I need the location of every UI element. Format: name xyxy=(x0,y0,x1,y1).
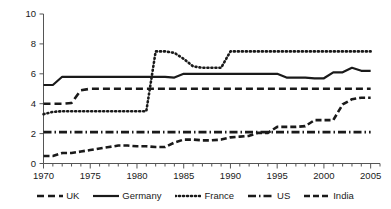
y-axis-tick-label: 0 xyxy=(20,159,36,169)
x-axis-tick-label: 1970 xyxy=(28,171,60,181)
legend-item-france[interactable]: France xyxy=(175,191,234,201)
y-axis-tick-label: 10 xyxy=(20,9,36,19)
x-axis-tick-label: 1990 xyxy=(214,171,246,181)
dotted-line-swatch xyxy=(175,191,201,201)
legend-item-germany[interactable]: Germany xyxy=(93,191,161,201)
legend-label: US xyxy=(277,191,290,201)
x-axis-tick-label: 1995 xyxy=(261,171,293,181)
legend-label: UK xyxy=(66,191,79,201)
dash-dot-line-swatch xyxy=(248,191,274,201)
x-axis-tick-label: 2005 xyxy=(355,171,387,181)
y-axis-tick-label: 2 xyxy=(20,129,36,139)
dashed-line-swatch xyxy=(37,191,63,201)
legend-label: Germany xyxy=(122,191,161,201)
solid-line-swatch xyxy=(93,191,119,201)
y-axis-tick-label: 8 xyxy=(20,39,36,49)
y-axis-tick-label: 4 xyxy=(20,99,36,109)
x-axis-tick-label: 1985 xyxy=(168,171,200,181)
x-axis-ticks xyxy=(44,164,381,169)
legend-item-uk[interactable]: UK xyxy=(37,191,79,201)
dashed-line-swatch xyxy=(304,191,330,201)
x-axis-tick-label: 2000 xyxy=(308,171,340,181)
data-series-group xyxy=(44,51,371,156)
x-axis-tick-label: 1975 xyxy=(74,171,106,181)
series-line-uk xyxy=(44,89,371,104)
y-axis-ticks xyxy=(40,14,44,164)
x-axis-tick-label: 1980 xyxy=(121,171,153,181)
legend-label: France xyxy=(204,191,234,201)
series-line-france xyxy=(44,51,371,114)
y-axis-tick-label: 6 xyxy=(20,69,36,79)
chart-legend: UKGermanyFranceUSIndia xyxy=(0,186,391,206)
legend-item-us[interactable]: US xyxy=(248,191,290,201)
legend-label: India xyxy=(333,191,354,201)
series-line-germany xyxy=(44,68,371,85)
series-line-india xyxy=(44,98,371,156)
line-chart: 0246810 19701975198019851990199520002005… xyxy=(0,0,391,209)
legend-item-india[interactable]: India xyxy=(304,191,354,201)
